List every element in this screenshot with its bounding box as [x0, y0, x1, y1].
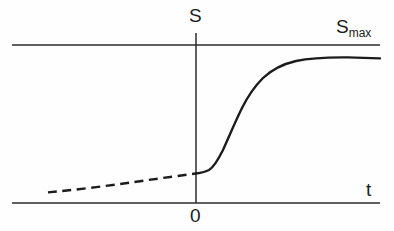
smax-base-text: S	[336, 16, 349, 37]
sigmoid-growth-figure: S Smax t 0	[0, 0, 394, 231]
origin-label: 0	[190, 206, 201, 225]
figure-canvas	[0, 0, 394, 231]
smax-asymptote-label: Smax	[336, 17, 371, 36]
growth-sigmoid-curve	[196, 57, 380, 173]
y-axis-label: S	[189, 6, 202, 25]
smax-subscript-text: max	[349, 26, 372, 40]
extrapolated-dashed-curve	[48, 174, 196, 193]
x-axis-label: t	[366, 180, 371, 199]
